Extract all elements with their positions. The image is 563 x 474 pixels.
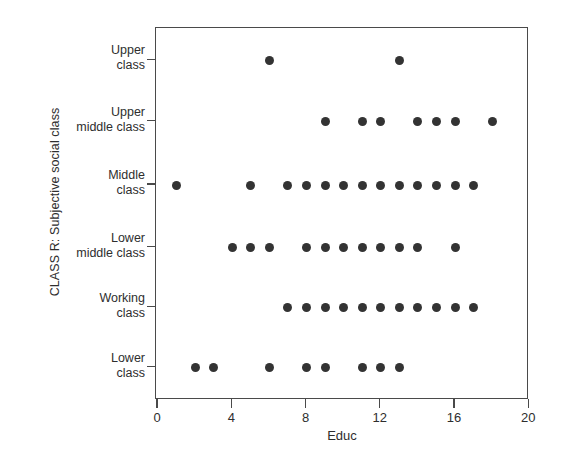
data-point	[172, 181, 181, 190]
data-point	[358, 181, 367, 190]
data-point	[302, 181, 311, 190]
x-tick-label-12: 12	[360, 410, 400, 425]
y-tick-label-upper-middle-class: Uppermiddle class	[0, 105, 145, 135]
data-point	[191, 363, 200, 372]
data-point	[395, 303, 404, 312]
data-point	[451, 181, 460, 190]
data-point	[358, 117, 367, 126]
x-tick-mark	[156, 399, 157, 408]
data-point	[283, 181, 292, 190]
data-point	[376, 181, 385, 190]
data-point	[339, 181, 348, 190]
data-point	[339, 303, 348, 312]
data-point	[321, 117, 330, 126]
data-point	[283, 303, 292, 312]
data-point	[413, 243, 422, 252]
data-point	[395, 56, 404, 65]
data-point	[302, 243, 311, 252]
data-point	[451, 243, 460, 252]
data-point	[358, 363, 367, 372]
data-point	[321, 363, 330, 372]
data-point	[265, 363, 274, 372]
data-point	[432, 117, 441, 126]
scatter-chart-figure: CLASS R: Subjective social class Uppercl…	[0, 0, 563, 474]
data-point	[432, 303, 441, 312]
data-point	[339, 243, 348, 252]
data-point	[488, 117, 497, 126]
x-tick-label-0: 0	[137, 410, 177, 425]
y-tick-label-upper-class: Upperclass	[0, 43, 145, 73]
x-tick-mark	[379, 399, 380, 408]
plot-area	[155, 27, 528, 399]
data-point	[265, 243, 274, 252]
data-point	[451, 117, 460, 126]
data-point	[321, 181, 330, 190]
data-point	[469, 303, 478, 312]
data-point	[209, 363, 218, 372]
data-point	[265, 56, 274, 65]
x-tick-label-4: 4	[211, 410, 251, 425]
data-point	[246, 181, 255, 190]
x-tick-mark	[231, 399, 232, 408]
data-point	[376, 243, 385, 252]
x-tick-label-8: 8	[286, 410, 326, 425]
data-point	[395, 243, 404, 252]
data-point	[302, 363, 311, 372]
data-point	[376, 117, 385, 126]
x-tick-label-16: 16	[434, 410, 474, 425]
data-point	[413, 117, 422, 126]
data-point	[451, 303, 460, 312]
data-point	[413, 303, 422, 312]
y-tick-label-lower-class: Lowerclass	[0, 351, 145, 381]
data-point	[395, 181, 404, 190]
data-point	[395, 363, 404, 372]
y-tick-label-lower-middle-class: Lowermiddle class	[0, 231, 145, 261]
x-tick-mark	[305, 399, 306, 408]
data-point	[358, 243, 367, 252]
x-tick-mark	[528, 399, 529, 408]
x-tick-mark	[453, 399, 454, 408]
y-tick-label-middle-class: Middleclass	[0, 168, 145, 198]
data-point	[246, 243, 255, 252]
y-tick-label-working-class: Workingclass	[0, 291, 145, 321]
data-point	[302, 303, 311, 312]
data-point	[376, 363, 385, 372]
data-point	[413, 181, 422, 190]
data-point	[358, 303, 367, 312]
x-axis-title: Educ	[155, 428, 529, 443]
data-point	[321, 243, 330, 252]
data-point	[432, 181, 441, 190]
data-point	[469, 181, 478, 190]
data-point	[376, 303, 385, 312]
data-point	[228, 243, 237, 252]
data-point	[321, 303, 330, 312]
x-tick-label-20: 20	[508, 410, 548, 425]
